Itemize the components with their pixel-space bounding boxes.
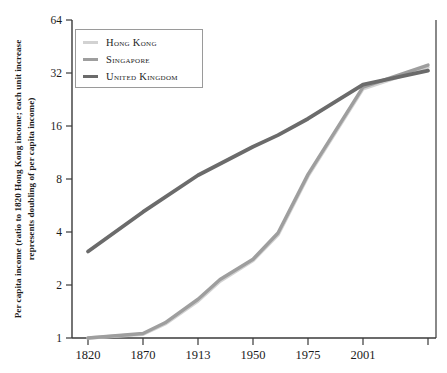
y-tick-label-1: 1 xyxy=(56,332,62,344)
y-tick-label-32: 32 xyxy=(51,67,63,79)
legend-label-united-kingdom: United Kingdom xyxy=(106,71,178,82)
y-tick-marks xyxy=(66,20,72,338)
x-tick-label-1950: 1950 xyxy=(241,348,266,362)
series-line-hong-kong xyxy=(88,67,428,338)
y-tick-label-8: 8 xyxy=(56,173,62,185)
series-line-singapore xyxy=(88,65,428,338)
legend-label-singapore: Singapore xyxy=(106,54,150,65)
x-tick-label-1870: 1870 xyxy=(131,348,156,362)
chart-legend: Hong Kong Singapore United Kingdom xyxy=(75,29,203,88)
legend-swatch-united-kingdom xyxy=(83,75,98,78)
plot-area: 64 32 16 8 4 2 1 1820 1870 1913 1950 197… xyxy=(0,0,447,373)
chart-figure: Per capita income (ratio to 1820 Hong Ko… xyxy=(0,0,447,373)
x-tick-label-2001: 2001 xyxy=(351,348,376,362)
series-line-united-kingdom xyxy=(88,71,428,252)
y-tick-label-4: 4 xyxy=(56,226,62,238)
y-tick-label-16: 16 xyxy=(51,120,63,132)
legend-item-singapore: Singapore xyxy=(83,51,150,67)
x-tick-label-1975: 1975 xyxy=(296,348,321,362)
legend-item-hong-kong: Hong Kong xyxy=(83,34,157,50)
y-tick-label-64: 64 xyxy=(51,14,63,26)
x-tick-marks xyxy=(88,338,428,345)
series-lines xyxy=(88,65,428,338)
legend-item-united-kingdom: United Kingdom xyxy=(83,68,178,84)
y-tick-label-2: 2 xyxy=(56,279,62,291)
legend-label-hong-kong: Hong Kong xyxy=(106,37,157,48)
legend-swatch-hong-kong xyxy=(83,41,98,44)
x-tick-label-1913: 1913 xyxy=(186,348,211,362)
x-tick-label-1820: 1820 xyxy=(76,348,101,362)
legend-swatch-singapore xyxy=(83,58,98,61)
